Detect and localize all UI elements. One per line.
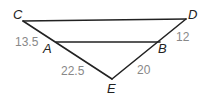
point-label-c: C [13,7,23,22]
point-label-a: A [42,41,52,56]
point-label-b: B [158,41,167,56]
length-be: 20 [137,63,151,77]
triangle-diagram: C D A B E 13.5 22.5 12 20 [0,0,207,94]
point-label-d: D [188,7,197,22]
length-ae: 22.5 [61,64,85,78]
length-db: 12 [176,30,190,44]
segment-cd [23,19,186,21]
length-ca: 13.5 [15,35,39,49]
point-label-e: E [107,81,116,94]
